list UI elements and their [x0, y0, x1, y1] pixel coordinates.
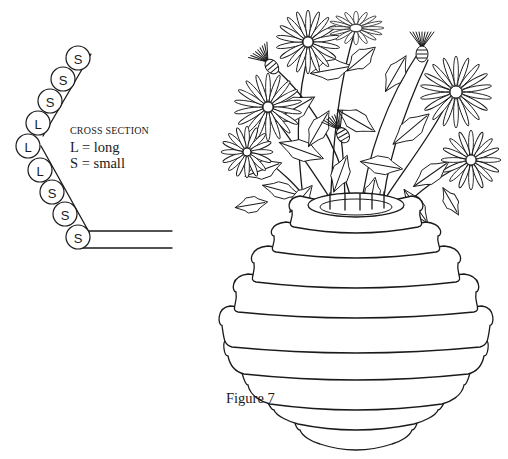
coil-small: S: [51, 67, 75, 91]
coil-small: S: [38, 89, 62, 113]
daisy: [328, 11, 384, 45]
coil-letter: S: [61, 208, 70, 223]
coil-letter: L: [34, 117, 41, 132]
coil-small: S: [40, 180, 64, 204]
coil-long: L: [26, 111, 50, 135]
coil-long: L: [28, 158, 52, 182]
coil-letter: S: [48, 186, 57, 201]
coiled-vase: [219, 192, 493, 450]
leaf: [359, 153, 404, 177]
leaf: [326, 152, 356, 195]
coil-letter: L: [36, 164, 43, 179]
coil-small: S: [53, 202, 77, 226]
coil-letter: L: [24, 140, 31, 155]
legend-long: L = long: [70, 140, 149, 155]
coil-small: S: [66, 225, 90, 249]
figure-caption: Figure 7: [226, 390, 275, 407]
cross-section-title: CROSS SECTION: [70, 126, 149, 136]
cross-section-legend: CROSS SECTION L = long S = small: [70, 126, 149, 171]
leaf: [378, 52, 413, 96]
coil-letter: S: [46, 95, 55, 110]
thistle: [410, 32, 434, 62]
coil-long: L: [16, 134, 40, 158]
coil-letter: S: [59, 73, 68, 88]
leaf: [437, 185, 464, 219]
legend-small: S = small: [70, 156, 149, 171]
daisy: [441, 130, 501, 190]
daisy: [221, 126, 273, 178]
coil-letter: S: [74, 52, 83, 67]
vase-opening: [320, 199, 392, 215]
daisy: [420, 56, 492, 128]
coil-letter: S: [74, 231, 83, 246]
coil-small: S: [66, 46, 90, 70]
leaf: [387, 107, 435, 152]
leaf: [234, 194, 269, 215]
